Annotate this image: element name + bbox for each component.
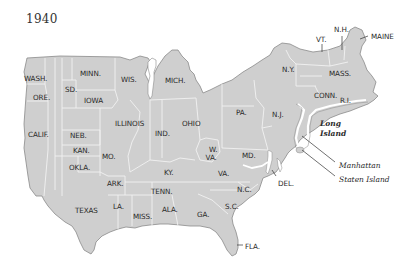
state-label-pa: PA. [236,109,247,116]
us-map [0,0,419,277]
us-landmass [24,27,378,256]
state-label-ga: GA. [197,211,209,218]
state-label-kan: KAN. [73,147,90,154]
state-label-n-c: N.C. [237,186,252,193]
state-label-la: LA. [113,203,124,210]
state-label-r-i: R.I. [340,97,351,104]
state-label-iowa: IOWA [84,97,103,104]
state-label-vt: VT. [316,36,326,43]
state-label-mo: MO. [102,153,116,160]
state-label-texas: TEXAS [75,207,98,214]
state-label-s-c: S.C. [225,203,239,210]
state-label-n-y: N.Y. [282,66,294,73]
state-label-md: MD. [242,152,256,159]
state-label-mass: MASS. [329,70,351,77]
state-label-illinois: ILLINOIS [115,120,144,127]
map-year-title: 1940 [26,12,58,26]
state-label-maine: MAINE [371,33,394,40]
state-label-ky: KY. [164,169,173,176]
state-label-ore: ORE. [33,94,50,101]
state-label-va: VA. [218,170,229,177]
state-label-w-va: W.VA. [205,146,217,162]
state-label-okla: OKLA. [69,164,90,171]
state-label-del: DEL. [278,180,294,187]
callout-staten-island: Staten Island [339,176,390,184]
callout-manhattan: Manhattan [339,162,381,170]
staten-island-shape [296,147,304,153]
state-label-tenn: TENN. [151,188,172,195]
state-label-minn: MINN. [80,70,101,77]
state-label-neb: NEB. [70,132,87,139]
state-label-miss: MISS. [133,213,152,220]
state-label-ind: IND. [155,130,170,137]
state-label-ala: ALA. [162,206,178,213]
state-label-ohio: OHIO [182,120,200,127]
callout-long-island: LongIsland [320,120,346,139]
state-label-n-j: N.J. [272,111,284,118]
state-label-sd: SD. [65,86,77,93]
state-label-calif: CALIF. [28,131,49,138]
state-label-fla: FLA. [245,243,260,250]
state-label-ark: ARK. [107,180,124,187]
state-label-wash: WASH. [24,75,47,82]
state-label-wis: WIS. [121,76,137,83]
state-label-conn: CONN. [314,92,337,99]
state-label-mich: MICH. [165,77,185,84]
state-label-n-h: N.H. [334,26,349,33]
